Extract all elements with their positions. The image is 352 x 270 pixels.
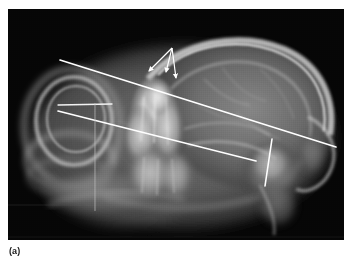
figure-root: (a) xyxy=(0,0,352,270)
radiograph-panel xyxy=(8,9,344,240)
figure-caption-label: (a) xyxy=(9,246,20,257)
radiograph-image xyxy=(8,9,344,240)
